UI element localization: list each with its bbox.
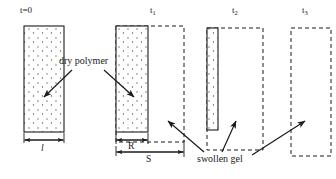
stage-3-time-sub: 3 xyxy=(305,9,308,16)
dimension-l-arrow xyxy=(24,133,64,143)
stage-0-time-label: t=0 xyxy=(20,6,32,15)
stage-2-time-sub: 2 xyxy=(235,9,238,16)
stage-0-time-base: t=0 xyxy=(20,5,32,15)
stage-0-group xyxy=(24,26,64,143)
dry-polymer-label: dry polymer xyxy=(59,56,108,66)
stage-2-dry-box xyxy=(207,28,218,130)
swollen-gel-label: swollen gel xyxy=(197,154,243,164)
stage-3-gel-box xyxy=(291,28,331,156)
stage-2-group xyxy=(207,28,263,150)
stage-0-dry-box xyxy=(24,26,64,132)
stage-1-time-sub: 1 xyxy=(153,9,156,16)
dimension-r-label: R xyxy=(128,142,134,152)
stage-1-time-label: t1 xyxy=(150,6,156,15)
stage-3-time-label: t3 xyxy=(302,6,308,15)
stage-2-time-label: t2 xyxy=(232,6,238,15)
stage-1-group xyxy=(116,26,184,157)
dimension-s-label: S xyxy=(146,155,151,165)
polymer-swelling-svg xyxy=(0,0,336,179)
stage-1-dry-box xyxy=(116,26,148,132)
stage-3-group xyxy=(291,28,331,156)
dimension-l-label: l xyxy=(41,144,44,154)
diagram-canvas: t=0 t1 t2 t3 dry polymer swollen gel l R… xyxy=(0,0,336,179)
